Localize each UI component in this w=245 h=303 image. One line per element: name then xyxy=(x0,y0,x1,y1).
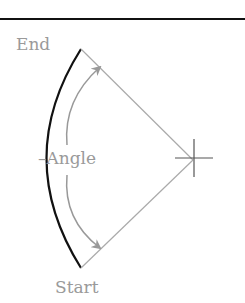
arc-angle-diagram: End –Angle Start xyxy=(0,0,245,303)
end-radius-line xyxy=(81,49,193,160)
diagram-canvas: End –Angle Start xyxy=(0,0,245,303)
angle-label: –Angle xyxy=(38,148,96,168)
start-label: Start xyxy=(55,277,99,297)
arrow-to-end-icon xyxy=(67,67,100,145)
start-radius-line xyxy=(81,160,193,268)
arrow-to-start-icon xyxy=(67,175,100,248)
end-label: End xyxy=(16,34,50,54)
